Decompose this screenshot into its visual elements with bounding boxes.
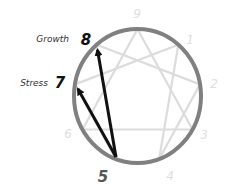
point-1-label: 1	[186, 33, 194, 47]
point-4-label: 4	[166, 169, 174, 183]
point-7-label: 7	[55, 74, 66, 92]
enneagram-diagram: 9 1 2 3 4 6 8 7 5 Growth Stress	[0, 0, 229, 188]
growth-label: Growth	[36, 34, 69, 44]
point-2-label: 2	[210, 77, 218, 91]
point-9-label: 9	[133, 7, 141, 21]
point-6-label: 6	[64, 127, 72, 141]
stress-label: Stress	[20, 78, 48, 88]
point-3-label: 3	[200, 128, 208, 142]
point-8-label: 8	[81, 31, 91, 49]
point-5-label: 5	[98, 168, 108, 186]
enneagram-circle	[74, 29, 201, 163]
